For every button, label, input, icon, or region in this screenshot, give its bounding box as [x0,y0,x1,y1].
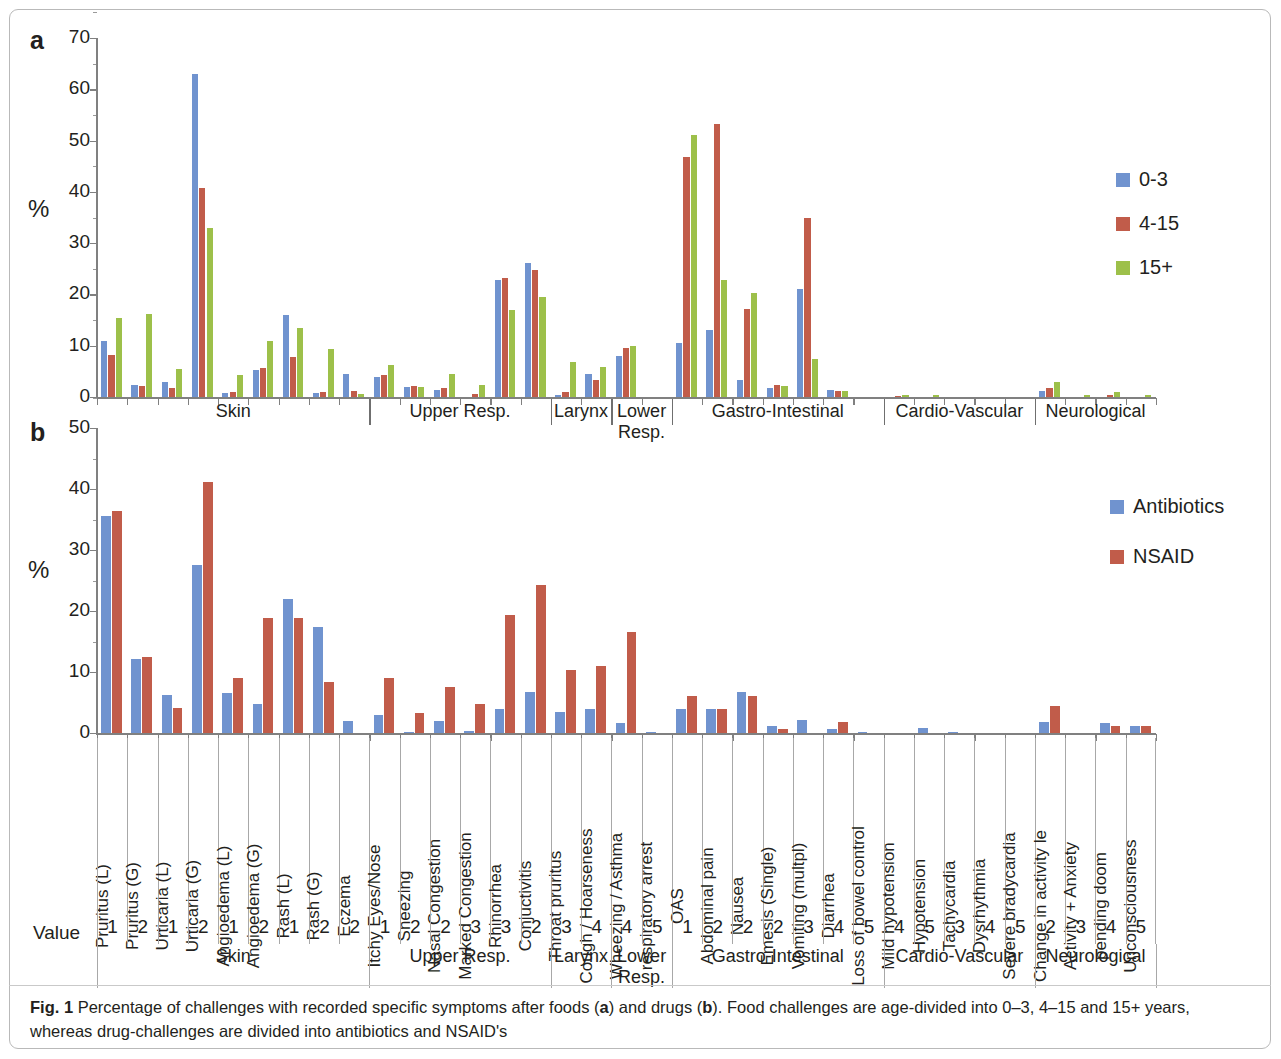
bar [263,618,273,733]
panel-b-plot-area [97,428,1156,733]
bar [131,385,137,397]
panel-a-letter: a [30,26,44,55]
legend-item[interactable]: 0-3 [1116,168,1168,191]
y-tick-label: 10 [50,334,90,356]
bar [570,362,576,397]
bottom-band-separator [369,944,370,988]
bar [233,678,243,734]
bar [1039,722,1049,733]
y-tick-label: 30 [50,538,90,560]
bar [131,659,141,733]
legend-item[interactable]: NSAID [1110,545,1194,568]
caption-bold-b: b [702,998,712,1016]
bar [691,135,697,397]
category-label-cell: respiratory arrest [642,738,672,910]
bar [374,377,380,398]
bar [842,391,848,397]
y-tick-label: 40 [50,180,90,202]
bar [313,393,319,397]
value-cell: 5 [642,910,672,944]
bar [744,309,750,397]
bar [297,328,303,397]
bar [918,728,928,733]
y-minor-tick [93,12,97,13]
bar [1130,726,1140,733]
bar [616,723,626,733]
bar [176,369,182,397]
x-tick-mark [1156,398,1157,405]
value-cell: 3 [551,910,581,944]
y-tick-label: 10 [50,660,90,682]
legend-label: 15+ [1139,256,1173,279]
legend-item[interactable]: Antibiotics [1110,495,1224,518]
bar [324,682,334,733]
caption-text-2: ) and drugs ( [609,998,703,1016]
bar [479,385,485,397]
bar [895,396,901,397]
bar [596,666,606,733]
bar [616,356,622,397]
band-row: SkinUpper Resp.LarynxLower Resp.Gastro-I… [97,944,1156,988]
bar [343,374,349,397]
bottom-band-separator [884,944,885,988]
bar [404,387,410,397]
value-cell: 2 [127,910,157,944]
bottom-band-separator [1156,944,1157,988]
bottom-band-separator [672,944,673,988]
value-cell: 3 [460,910,490,944]
panel-b-ylabel: % [28,556,49,584]
legend-item[interactable]: 15+ [1116,256,1173,279]
caption-text-1: Percentage of challenges with recorded s… [78,998,600,1016]
y-tick-label: 20 [50,599,90,621]
bar [199,188,205,397]
bottom-band-label: Gastro-Intestinal [672,944,884,988]
bar [404,732,414,733]
legend-item[interactable]: 4-15 [1116,212,1179,235]
bar [1141,726,1151,733]
value-cell: 3 [1065,910,1095,944]
bar [593,380,599,397]
band-label: Upper Resp. [369,401,551,422]
band-label: Neurological [1035,401,1156,422]
bar [464,731,474,733]
bar [384,678,394,733]
bar [902,395,908,397]
bar [562,392,568,397]
bar [812,359,818,397]
legend-label: 0-3 [1139,168,1168,191]
bar [623,348,629,397]
bar [525,692,535,733]
bar [162,695,172,733]
bar [502,278,508,397]
bar [230,392,236,397]
bar [706,330,712,397]
value-cell: 1 [672,910,702,944]
bottom-band-label: Neurological [1035,944,1156,988]
bar [781,386,787,397]
bar [434,390,440,397]
y-tick-label: 50 [50,129,90,151]
value-cell: 2 [521,910,551,944]
bar [827,390,833,397]
legend-swatch [1110,500,1124,514]
legend-label: NSAID [1133,545,1194,568]
band-label: Skin [97,401,369,422]
bar [555,712,565,733]
label-band-left-edge [97,738,98,988]
bar [1084,395,1090,397]
bar [283,315,289,397]
bar [434,721,444,733]
bar [358,394,364,397]
bar [192,74,198,397]
bar [1111,726,1121,733]
bar [1100,723,1110,733]
bar [627,632,637,733]
value-cell: 2 [763,910,793,944]
bar [445,687,455,733]
bar [717,709,727,733]
bar [495,709,505,733]
value-cell: 2 [732,910,762,944]
band-label: Gastro-Intestinal [672,401,884,422]
legend-swatch [1116,217,1130,231]
caption-label: Fig. 1 [30,998,73,1016]
